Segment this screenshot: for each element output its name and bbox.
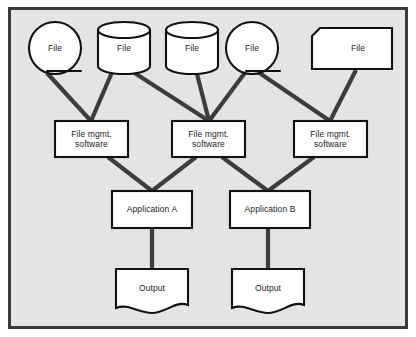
magnetic-drum-icon [29, 22, 81, 74]
punched-card-icon [312, 28, 392, 69]
file-mgmt-node-2[interactable] [172, 121, 245, 157]
file-mgmt-node-1[interactable] [55, 121, 128, 157]
process-box-icon [112, 191, 192, 228]
output-node-1[interactable] [116, 269, 188, 313]
document-icon [232, 269, 304, 313]
file-node-4[interactable] [226, 22, 280, 74]
connector-file1-fms1 [47, 73, 91, 121]
file-node-5[interactable] [312, 28, 392, 69]
process-box-icon [172, 121, 245, 157]
diagram-canvas: File File File File File File mgmt. soft… [0, 0, 416, 337]
magnetic-drum-icon [226, 22, 278, 74]
file-node-3[interactable] [166, 22, 218, 74]
file-node-1[interactable] [29, 22, 81, 74]
document-icon [116, 269, 188, 313]
process-box-icon [55, 121, 128, 157]
connector-group [47, 70, 356, 269]
connector-fms2-appb [222, 157, 268, 191]
file-mgmt-node-3[interactable] [294, 121, 367, 157]
diagram-graphics [0, 0, 416, 337]
application-node-b[interactable] [230, 191, 310, 228]
process-box-icon [294, 121, 367, 157]
disk-cylinder-icon [166, 22, 218, 74]
file-node-2[interactable] [98, 22, 150, 74]
connector-fms2-appa [152, 157, 196, 191]
disk-cylinder-icon [98, 22, 150, 74]
connector-fms1-appa [108, 157, 152, 191]
connector-file4-fms3 [258, 72, 330, 121]
connector-fms3-appb [268, 157, 314, 191]
connector-file4-fms2 [209, 70, 247, 121]
output-node-2[interactable] [232, 269, 304, 313]
connector-file5-fms3 [330, 70, 356, 121]
connector-file2-fms1 [91, 70, 113, 121]
application-node-a[interactable] [112, 191, 192, 228]
process-box-icon [230, 191, 310, 228]
